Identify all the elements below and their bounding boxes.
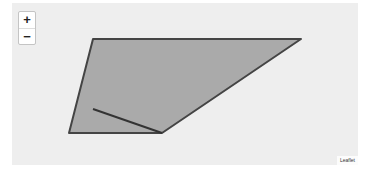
attribution[interactable]: Leaflet: [337, 156, 358, 165]
zoom-out-button[interactable]: −: [19, 29, 35, 45]
polygon-overlay[interactable]: [12, 3, 358, 165]
map-container[interactable]: + − Leaflet: [12, 3, 358, 165]
zoom-in-button[interactable]: +: [19, 12, 35, 29]
polygon-shape[interactable]: [69, 39, 301, 133]
zoom-control: + −: [18, 11, 36, 45]
